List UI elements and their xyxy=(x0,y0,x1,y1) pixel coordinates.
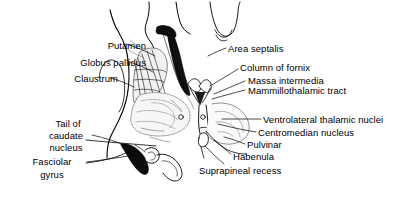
tail-of-caudate-and-fasciolar-gyrus xyxy=(86,144,182,181)
label-ventrolateral-thalamic-nuclei: Ventrolateral thalamic nuclei xyxy=(263,114,383,125)
label-globus-pallidus: Globus pallidus xyxy=(48,57,146,68)
suprapineal-recess-shape xyxy=(198,133,208,147)
leader-fasciolar-gyrus xyxy=(87,155,136,162)
label-area-septalis: Area septalis xyxy=(228,43,284,54)
label-claustrum: Claustrum xyxy=(48,73,118,84)
label-centromedian-nucleus: Centromedian nucleus xyxy=(258,127,354,138)
label-habenula: Habenula xyxy=(233,151,274,162)
leader-column-of-fornix xyxy=(210,69,238,86)
label-suprapineal-recess: Suprapineal recess xyxy=(199,165,281,176)
leader-mammillothalamic-tract xyxy=(212,90,245,99)
leader-suprapineal-recess xyxy=(205,146,224,164)
label-pulvinar: Pulvinar xyxy=(247,139,282,150)
label-fasciolar: Fasciolar xyxy=(22,156,82,167)
label-nucleus: nucleus xyxy=(40,142,92,153)
massa-intermedia-marker xyxy=(179,115,184,120)
anatomical-figure: Putamen Globus pallidus Claustrum Tail o… xyxy=(0,0,415,205)
pulvinar-habenula-region xyxy=(206,103,249,154)
label-caudate: caudate xyxy=(40,130,92,141)
mammillothalamic-tract-marker xyxy=(201,115,206,120)
label-putamen: Putamen xyxy=(78,40,146,51)
label-tail-of: Tail of xyxy=(44,118,92,129)
label-column-of-fornix: Column of fornix xyxy=(240,62,310,73)
label-gyrus: gyrus xyxy=(27,169,77,180)
leader-area-septalis xyxy=(208,48,226,56)
label-mammillothalamic-tract: Mammillothalamic tract xyxy=(248,85,346,96)
leader-massa-intermedia xyxy=(214,81,245,94)
